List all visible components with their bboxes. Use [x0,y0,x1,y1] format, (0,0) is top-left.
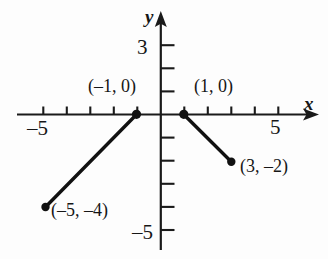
x-axis-label: x [304,94,314,113]
x-tick-label-neg5: –5 [27,118,48,139]
y-tick-label-neg5: –5 [132,222,153,243]
point-marker-1-0 [179,110,188,119]
annotation-1-0: (1, 0) [194,77,233,95]
point-marker-3-neg2 [227,158,235,166]
x-tick-label-5: 5 [270,117,281,138]
y-axis-label: y [145,7,153,26]
point-marker-neg1-0 [132,110,141,119]
coordinate-plane-figure: y x –5 5 3 –5 (–1, 0) (1, 0) (3, –2) (–5… [0,0,328,259]
segment-left [46,115,137,208]
point-marker-neg5-neg4 [41,203,49,211]
annotation-3-neg2: (3, –2) [240,157,288,175]
annotation-neg1-0: (–1, 0) [88,77,136,95]
annotation-neg5-neg4: (–5, –4) [51,201,108,219]
segment-right [184,115,232,162]
y-axis-ticks [161,45,175,230]
y-tick-label-3: 3 [137,37,148,58]
